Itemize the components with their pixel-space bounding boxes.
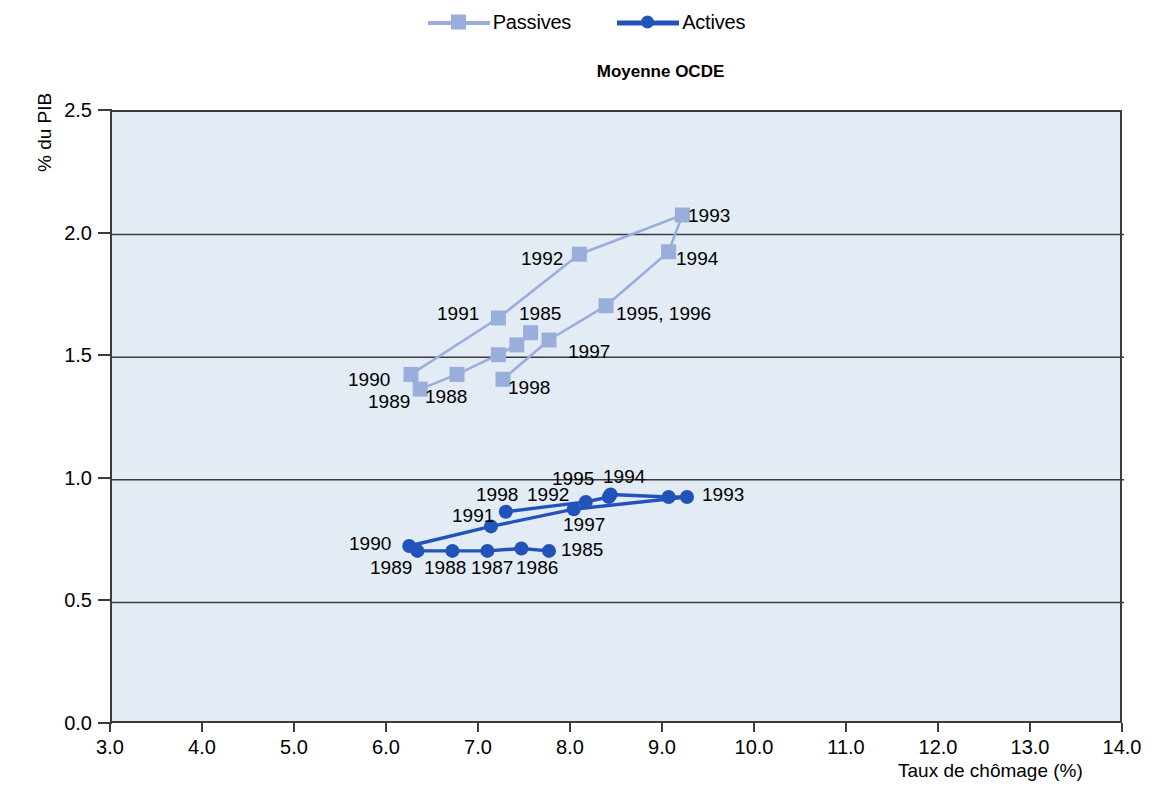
x-tick-label: 10.0: [735, 736, 774, 759]
x-tick-label: 7.0: [464, 736, 492, 759]
data-point-actives-1996[interactable]: [602, 490, 616, 504]
y-tick-label: 1.0: [42, 466, 92, 489]
data-point-passives-1991[interactable]: [491, 311, 506, 326]
data-point-actives-1998[interactable]: [499, 505, 513, 519]
point-label-actives-1987: 1987: [471, 557, 513, 579]
legend-item-passives: Passives: [428, 11, 571, 34]
x-tick-label: 9.0: [648, 736, 676, 759]
point-label-actives-1988: 1988: [424, 557, 466, 579]
point-label-passives-1985: 1985: [519, 303, 561, 325]
x-tick-label: 3.0: [96, 736, 124, 759]
data-point-actives-1987[interactable]: [480, 544, 494, 558]
point-label-actives-1998: 1998: [476, 484, 518, 506]
plot-svg: [112, 112, 1124, 725]
y-tick-label: 0.5: [42, 589, 92, 612]
data-point-passives-1992[interactable]: [572, 247, 587, 262]
data-point-passives-1994[interactable]: [661, 244, 676, 259]
x-tick-label: 8.0: [556, 736, 584, 759]
legend-label-passives: Passives: [493, 11, 571, 34]
x-tick-label: 11.0: [827, 736, 864, 759]
data-point-passives-1995-1996[interactable]: [599, 298, 614, 313]
point-label-actives-1986: 1986: [516, 557, 558, 579]
point-label-passives-1997: 1997: [568, 341, 610, 363]
point-label-passives-1993: 1993: [688, 205, 730, 227]
point-label-passives-1994: 1994: [676, 248, 718, 270]
point-label-passives-1992: 1992: [521, 248, 563, 270]
data-point-passives-1997[interactable]: [542, 333, 557, 348]
legend-marker-passives-icon: [428, 20, 490, 24]
y-axis-title: % du PIB: [34, 93, 56, 172]
data-point-actives-1993[interactable]: [680, 490, 694, 504]
data-point-actives-1988[interactable]: [445, 544, 459, 558]
point-label-actives-1985: 1985: [561, 539, 603, 561]
y-tick-label: 2.0: [42, 221, 92, 244]
data-point-actives-1990[interactable]: [402, 539, 416, 553]
x-axis-title: Taux de chômage (%): [898, 760, 1083, 782]
data-point-passives-1987[interactable]: [491, 347, 506, 362]
x-tick-label: 4.0: [188, 736, 216, 759]
x-tick-label: 14.0: [1103, 736, 1142, 759]
legend-label-actives: Actives: [682, 11, 745, 34]
point-label-passives-1990: 1990: [348, 369, 390, 391]
y-tick-label: 0.0: [42, 712, 92, 735]
data-point-passives-1988[interactable]: [450, 367, 465, 382]
point-label-passives-1998: 1998: [508, 377, 550, 399]
point-label-passives-1991: 1991: [437, 303, 479, 325]
chart-legend: Passives Actives: [0, 8, 1173, 36]
data-point-actives-1986[interactable]: [514, 542, 528, 556]
point-label-actives-1991: 1991: [452, 505, 494, 527]
x-tick-label: 13.0: [1011, 736, 1050, 759]
chart-title: Moyenne OCDE: [0, 62, 1173, 82]
data-point-actives-1994[interactable]: [662, 490, 676, 504]
legend-marker-actives-icon: [617, 20, 679, 24]
point-label-actives-1989: 1989: [370, 557, 412, 579]
data-point-passives-1986[interactable]: [509, 337, 524, 352]
point-label-passives-1988: 1988: [425, 386, 467, 408]
data-point-actives-1997[interactable]: [579, 495, 593, 509]
x-tick-label: 12.0: [919, 736, 958, 759]
x-tick: [109, 723, 111, 732]
data-point-passives-1990[interactable]: [404, 367, 419, 382]
y-tick-label: 1.5: [42, 344, 92, 367]
point-label-actives-1994: 1994: [603, 466, 645, 488]
point-label-passives-1995-1996: 1995, 1996: [616, 303, 711, 325]
point-label-actives-1990: 1990: [349, 533, 391, 555]
point-label-actives-1992: 1992: [527, 484, 569, 506]
plot-area: [110, 110, 1122, 723]
data-point-passives-1985[interactable]: [523, 325, 538, 340]
point-label-actives-1993: 1993: [702, 484, 744, 506]
data-point-actives-1985[interactable]: [542, 544, 556, 558]
x-tick-label: 6.0: [372, 736, 400, 759]
point-label-actives-1997: 1997: [563, 514, 605, 536]
legend-item-actives: Actives: [617, 11, 745, 34]
point-label-passives-1989: 1989: [368, 391, 410, 413]
x-tick-label: 5.0: [280, 736, 308, 759]
